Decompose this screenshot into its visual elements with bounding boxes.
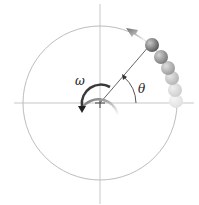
theta-label: θ bbox=[138, 82, 145, 96]
ball bbox=[145, 38, 159, 52]
theta-arc bbox=[124, 77, 136, 103]
ball-trail-2 bbox=[154, 50, 168, 64]
omega-arrowhead bbox=[78, 106, 86, 113]
ball-trail-5 bbox=[168, 83, 182, 97]
velocity-arrow bbox=[126, 28, 146, 41]
rotation-diagram bbox=[0, 0, 199, 205]
omega-label: ω bbox=[75, 74, 85, 88]
